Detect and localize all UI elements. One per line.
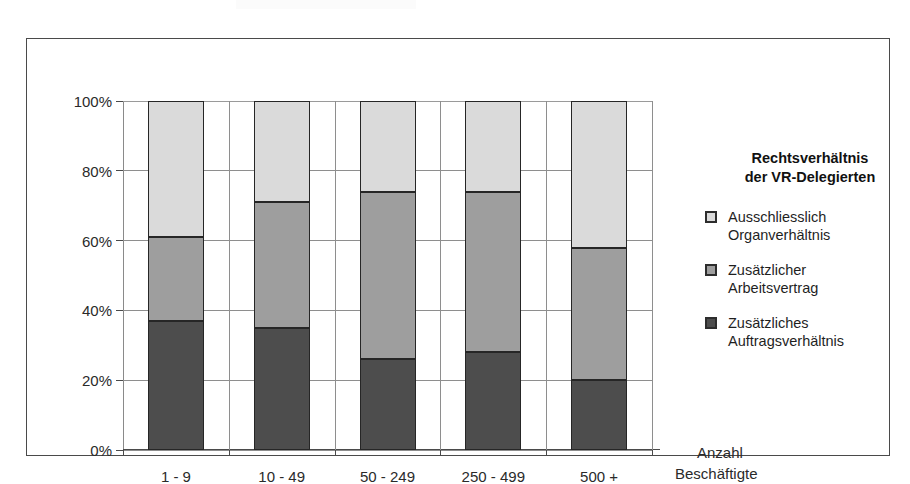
plot-inner: 0%20%40%60%80%100%1 - 910 - 4950 - 24925… xyxy=(123,101,652,450)
plot-area: 0%20%40%60%80%100%1 - 910 - 4950 - 24925… xyxy=(123,101,652,450)
bar-segment[interactable] xyxy=(571,380,627,450)
legend-item[interactable]: ZusätzlicherArbeitsvertrag xyxy=(705,261,910,297)
legend-item[interactable]: AusschliesslichOrganverhältnis xyxy=(705,208,910,244)
x-axis-title: Anzahl Beschäftigte xyxy=(675,442,758,484)
legend-title: Rechtsverhältnis der VR-Delegierten xyxy=(705,149,910,187)
legend-swatch-icon xyxy=(705,317,717,329)
y-tick-mark xyxy=(116,170,123,171)
gridline-vertical xyxy=(440,101,441,450)
legend: Rechtsverhältnis der VR-Delegierten Auss… xyxy=(705,149,910,367)
legend-item-label: ZusätzlicherArbeitsvertrag xyxy=(728,261,818,297)
bar-column[interactable] xyxy=(465,101,521,450)
y-tick-label: 100% xyxy=(74,93,112,110)
legend-item[interactable]: ZusätzlichesAuftragsverhältnis xyxy=(705,314,910,350)
x-axis-title-line1: Anzahl xyxy=(675,442,758,463)
y-tick-label: 20% xyxy=(82,372,112,389)
bar-segment[interactable] xyxy=(465,192,521,353)
legend-swatch-icon xyxy=(705,264,717,276)
y-tick-label: 80% xyxy=(82,162,112,179)
legend-item-label-line1: Ausschliesslich xyxy=(728,208,830,226)
y-tick-label: 60% xyxy=(82,232,112,249)
y-tick-mark xyxy=(116,310,123,311)
gridline-vertical xyxy=(335,101,336,450)
x-tick-label: 10 - 49 xyxy=(258,468,305,484)
bar-segment[interactable] xyxy=(254,101,310,202)
x-tick-mark xyxy=(335,450,336,455)
legend-item-label-line2: Auftragsverhältnis xyxy=(728,332,844,350)
bar-segment[interactable] xyxy=(571,101,627,248)
bar-segment[interactable] xyxy=(254,328,310,450)
bar-segment[interactable] xyxy=(360,359,416,450)
y-tick-mark xyxy=(116,240,123,241)
x-tick-label: 50 - 249 xyxy=(360,468,415,484)
bar-column[interactable] xyxy=(254,101,310,450)
x-tick-mark xyxy=(440,450,441,455)
bar-segment[interactable] xyxy=(148,321,204,450)
gridline-vertical xyxy=(229,101,230,450)
bar-segment[interactable] xyxy=(571,248,627,381)
legend-swatch-icon xyxy=(705,211,717,223)
bar-column[interactable] xyxy=(360,101,416,450)
y-tick-mark xyxy=(116,380,123,381)
y-tick-label: 40% xyxy=(82,302,112,319)
chart-figure-frame: 0%20%40%60%80%100%1 - 910 - 4950 - 24925… xyxy=(26,38,890,456)
legend-item-label-line1: Zusätzliches xyxy=(728,314,844,332)
x-tick-mark xyxy=(652,450,653,455)
legend-title-line1: Rechtsverhältnis xyxy=(752,150,869,166)
bar-segment[interactable] xyxy=(465,352,521,450)
gridline-vertical xyxy=(546,101,547,450)
x-tick-label: 500 + xyxy=(580,468,618,484)
x-tick-label: 1 - 9 xyxy=(161,468,191,484)
bar-segment[interactable] xyxy=(148,237,204,321)
y-axis-line xyxy=(123,101,124,450)
bar-segment[interactable] xyxy=(360,192,416,360)
legend-item-label-line2: Arbeitsvertrag xyxy=(728,279,818,297)
bar-column[interactable] xyxy=(571,101,627,450)
bar-segment[interactable] xyxy=(148,101,204,237)
bar-segment[interactable] xyxy=(254,202,310,328)
x-tick-label: 250 - 499 xyxy=(462,468,525,484)
bar-column[interactable] xyxy=(148,101,204,450)
x-axis-title-line2: Beschäftigte xyxy=(675,463,758,484)
bar-segment[interactable] xyxy=(360,101,416,192)
legend-item-label: ZusätzlichesAuftragsverhältnis xyxy=(728,314,844,350)
scan-artifact xyxy=(236,0,416,9)
legend-item-label: AusschliesslichOrganverhältnis xyxy=(728,208,830,244)
legend-title-line2: der VR-Delegierten xyxy=(745,169,876,185)
legend-items: AusschliesslichOrganverhältnisZusätzlich… xyxy=(705,208,910,350)
x-tick-mark xyxy=(229,450,230,455)
x-tick-mark xyxy=(123,450,124,455)
legend-item-label-line1: Zusätzlicher xyxy=(728,261,818,279)
y-tick-mark xyxy=(116,101,123,102)
gridline-vertical xyxy=(652,101,653,450)
legend-item-label-line2: Organverhältnis xyxy=(728,226,830,244)
bar-segment[interactable] xyxy=(465,101,521,192)
y-tick-label: 0% xyxy=(90,442,112,459)
x-tick-mark xyxy=(546,450,547,455)
